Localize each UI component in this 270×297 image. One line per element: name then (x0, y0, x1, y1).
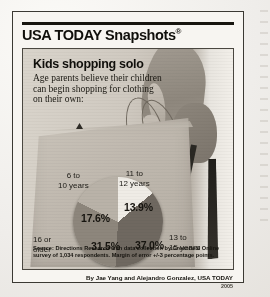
brand-title: USA TODAY Snapshots® (22, 27, 181, 43)
pie-value-11-to-12: 13.9% (124, 201, 153, 213)
scanned-page: USA TODAY Snapshots® Kids shopping solo … (0, 0, 270, 297)
source-note: Source: Directions Research with data co… (33, 245, 229, 259)
registered-trademark-icon: ® (176, 27, 182, 36)
infographic-frame: USA TODAY Snapshots® Kids shopping solo … (12, 11, 244, 283)
page-bleed-lines (260, 10, 268, 260)
illustration-panel: Kids shopping solo Age parents believe t… (22, 48, 234, 270)
byline-year: 2005 (86, 282, 233, 290)
brand-name: USA TODAY Snapshots (22, 27, 176, 43)
byline-credit: By Jae Yang and Alejandro Gonzalez, USA … (86, 274, 233, 281)
byline: By Jae Yang and Alejandro Gonzalez, USA … (86, 274, 233, 290)
pie-label-6-to-10: 6 to10 years (58, 171, 89, 191)
pie-label-11-to-12: 11 to12 years (119, 169, 150, 189)
pie-value-6-to-10: 17.6% (81, 212, 110, 224)
subtitle: Age parents believe their children can b… (33, 73, 163, 105)
page-title: Kids shopping solo (33, 57, 144, 71)
brand-rule (22, 22, 234, 25)
